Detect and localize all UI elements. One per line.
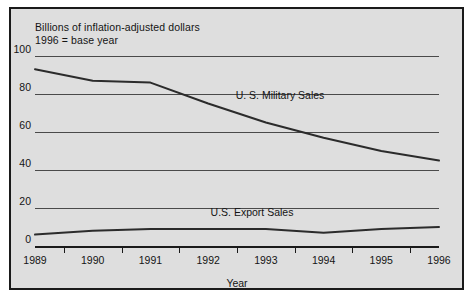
series-label-export: U.S. Export Sales <box>211 206 294 218</box>
y-axis-tick-label: 0 <box>25 233 31 246</box>
x-axis-tick-label: 1991 <box>139 254 162 266</box>
x-axis-tick-mark <box>410 246 411 253</box>
x-axis-tick-label: 1989 <box>23 254 46 266</box>
x-axis-tick-label: 1995 <box>370 254 393 266</box>
plot-area: 020406080100 U. S. Military Sales U.S. E… <box>35 56 439 246</box>
series-label-military: U. S. Military Sales <box>236 89 325 101</box>
x-axis-tick-mark <box>237 246 238 253</box>
x-axis-tick-label: 1992 <box>196 254 219 266</box>
x-axis-tick-label: 1994 <box>312 254 335 266</box>
series-line-export <box>35 227 439 235</box>
chart-title: Billions of inflation-adjusted dollars <box>35 21 200 33</box>
x-axis-tick-mark <box>122 246 123 253</box>
x-axis-title: Year <box>226 277 247 289</box>
x-axis: 19891990199119921993199419951996 <box>35 246 439 276</box>
chart-subtitle: 1996 = base year <box>35 34 118 46</box>
x-axis-tick-mark <box>64 246 65 253</box>
x-axis-tick-label: 1996 <box>427 254 450 266</box>
x-axis-tick-mark <box>179 246 180 253</box>
y-axis-tick-label: 40 <box>19 157 31 170</box>
y-axis-tick-label: 80 <box>19 81 31 94</box>
x-axis-tick-label: 1993 <box>254 254 277 266</box>
x-axis-tick-mark <box>352 246 353 253</box>
y-axis-tick-label: 20 <box>19 195 31 208</box>
series-line-military <box>35 69 439 160</box>
x-axis-tick-mark <box>295 246 296 253</box>
y-axis-tick-label: 60 <box>19 119 31 132</box>
y-axis-tick-label: 100 <box>13 43 31 56</box>
x-axis-tick-label: 1990 <box>81 254 104 266</box>
chart-figure: Billions of inflation-adjusted dollars 1… <box>9 7 464 290</box>
